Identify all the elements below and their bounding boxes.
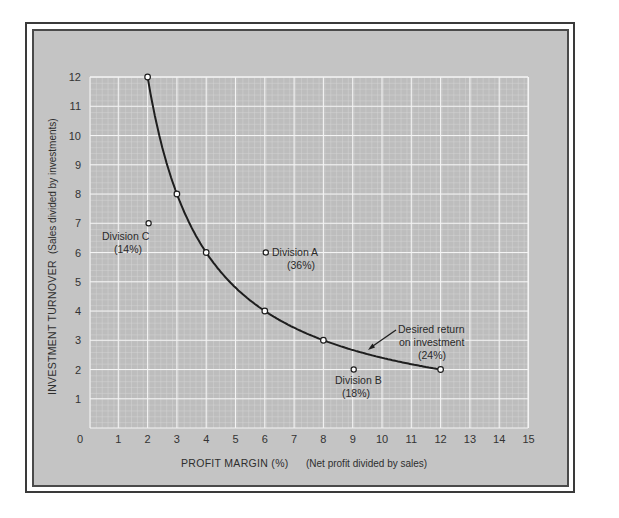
curve-point-marker xyxy=(262,308,268,314)
x-axis-ticks: 0123456789101112131415 xyxy=(77,433,535,445)
x-tick-label: 6 xyxy=(262,433,268,445)
division-a-label: Division A xyxy=(272,246,318,258)
chart-svg: 123456789101112 0123456789101112131415 D… xyxy=(0,0,619,518)
x-tick-label: 7 xyxy=(291,433,297,445)
y-axis-ticks: 123456789101112 xyxy=(69,71,81,405)
y-tick-label: 6 xyxy=(75,247,81,259)
x-tick-label: 14 xyxy=(493,433,505,445)
x-tick-label: 4 xyxy=(203,433,209,445)
x-tick-label: 11 xyxy=(406,433,417,445)
y-tick-label: 3 xyxy=(75,334,81,346)
y-tick-label: 9 xyxy=(75,159,81,171)
division-b-marker xyxy=(351,367,356,372)
x-axis-title: PROFIT MARGIN (%) xyxy=(181,457,289,469)
x-tick-label: 10 xyxy=(376,433,388,445)
division-a-marker xyxy=(263,250,268,255)
x-tick-label: 1 xyxy=(115,433,121,445)
y-tick-label: 8 xyxy=(75,188,81,200)
y-tick-label: 10 xyxy=(69,130,81,142)
y-tick-label: 2 xyxy=(75,364,81,376)
curve-point-marker xyxy=(145,74,151,80)
division-b-rate: (18%) xyxy=(342,387,370,399)
division-b-label: Division B xyxy=(335,374,382,386)
x-tick-label: 13 xyxy=(464,433,476,445)
y-tick-label: 4 xyxy=(75,305,81,317)
x-tick-label: 8 xyxy=(320,433,326,445)
y-tick-label: 5 xyxy=(75,276,81,288)
curve-point-marker xyxy=(321,337,327,343)
x-tick-label: 12 xyxy=(434,433,446,445)
division-c-rate: (14%) xyxy=(114,243,142,255)
curve-annotation-line3: (24%) xyxy=(418,349,446,361)
y-tick-label: 1 xyxy=(75,393,81,405)
division-c-label: Division C xyxy=(102,230,150,242)
division-a-rate: (36%) xyxy=(287,259,315,271)
y-tick-label: 7 xyxy=(75,217,81,229)
curve-point-marker xyxy=(203,250,209,256)
curve-annotation-line2: on investment xyxy=(399,336,464,348)
y-tick-label: 11 xyxy=(70,100,81,112)
y-axis-title: INVESTMENT TURNOVER xyxy=(46,260,58,395)
x-tick-label: 9 xyxy=(350,433,356,445)
x-tick-label: 15 xyxy=(522,433,534,445)
x-tick-label: 3 xyxy=(174,433,180,445)
curve-point-marker xyxy=(438,367,444,373)
division-c-marker xyxy=(146,221,151,226)
x-tick-label: 2 xyxy=(145,433,151,445)
x-axis-note: (Net profit divided by sales) xyxy=(306,458,427,469)
y-axis-note: (Sales divided by investments) xyxy=(47,118,58,254)
y-tick-label: 12 xyxy=(69,71,81,83)
curve-point-marker xyxy=(174,191,180,197)
x-tick-label: 0 xyxy=(77,433,83,445)
curve-annotation-line1: Desired return xyxy=(398,323,465,335)
x-tick-label: 5 xyxy=(232,433,238,445)
